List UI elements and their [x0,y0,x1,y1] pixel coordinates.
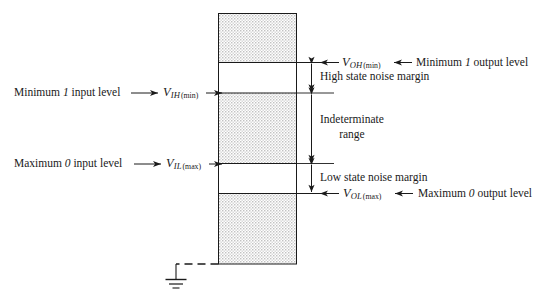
label-high-state-noise-margin: High state noise margin [320,70,429,83]
symbol-paren: (min) [363,61,380,70]
symbol-v: V [166,156,174,170]
ground-symbol [166,264,219,288]
symbol-paren: (min) [181,91,198,100]
symbol-vil-max: VIL(max) [166,156,201,171]
logic-level-noise-margin-figure: Minimum 1 input level VIH(min) Maximum 0… [0,0,539,305]
label-text-tail: output level [471,56,529,68]
label-text-head: Minimum [416,56,465,68]
diagram-canvas [0,0,539,305]
symbol-vih-min: VIH(min) [163,85,198,100]
label-text-tail: input level [71,157,123,169]
symbol-v: V [343,186,351,200]
label-text-head: Maximum [14,157,65,169]
high-state-noise-margin-band [219,63,296,94]
label-low-state-noise-margin: Low state noise margin [320,171,427,184]
label-maximum-0-input-level: Maximum 0 input level [14,157,122,170]
low-state-noise-margin-band [219,164,296,194]
label-text-head: Maximum [418,187,469,199]
symbol-v: V [342,55,350,69]
bar-outline [219,14,297,265]
symbol-voh-min: VOH(min) [342,55,381,70]
label-minimum-1-output-level: Minimum 1 output level [416,56,528,69]
symbol-subscript: OH [350,60,363,70]
indeterminate-line-2: range [339,128,365,140]
label-indeterminate-range: Indeterminate range [320,112,384,141]
symbol-subscript: OL [351,191,362,201]
symbol-subscript: IH [171,90,180,100]
label-minimum-1-input-level: Minimum 1 input level [14,86,120,99]
indeterminate-line-1: Indeterminate [320,113,384,125]
label-text-head: Minimum [14,86,63,98]
label-text-tail: input level [69,86,121,98]
symbol-subscript: IL [174,161,182,171]
symbol-vol-max: VOL(max) [343,186,381,201]
symbol-paren: (max) [182,162,201,171]
label-maximum-0-output-level: Maximum 0 output level [418,187,532,200]
symbol-paren: (max) [363,192,382,201]
label-text-tail: output level [475,187,533,199]
symbol-v: V [163,85,171,99]
voltage-bar [219,14,297,265]
